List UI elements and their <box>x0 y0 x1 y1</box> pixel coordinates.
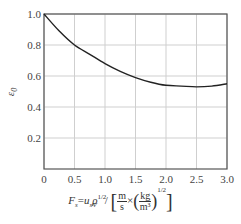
tick-labels: 00.51.01.52.02.53.00.20.40.60.81.0 <box>27 8 234 185</box>
y-tick-label: 0.8 <box>27 39 41 51</box>
bracket-close: ] <box>166 190 173 212</box>
y-tick-label: 1.0 <box>27 8 41 20</box>
x-tick-label: 0 <box>41 173 47 185</box>
x-label-F: F <box>68 194 75 206</box>
y-axis-label: ε0 <box>4 88 19 96</box>
y-tick-label: 0.2 <box>27 132 41 144</box>
frac-den-m3: m³ <box>139 202 151 212</box>
fraction-kg-m3: kgm³ <box>139 191 151 212</box>
fraction-m-s: ms <box>117 191 127 212</box>
x-axis-label: Fs=usρ1/2V/ [ms×(kgm³)1/2] <box>0 186 241 213</box>
grid-lines <box>44 14 227 169</box>
x-label-half-power: 1/2 <box>157 186 166 194</box>
frac-den-s: s <box>117 202 127 212</box>
x-tick-label: 2.0 <box>159 173 173 185</box>
bracket-open: [ <box>110 190 117 212</box>
y-tick-label: 0.6 <box>27 70 41 82</box>
x-tick-label: 1.5 <box>129 173 143 185</box>
x-tick-label: 0.5 <box>68 173 82 185</box>
x-tick-label: 3.0 <box>220 173 234 185</box>
y-tick-label: 0.4 <box>27 101 41 113</box>
x-tick-label: 2.5 <box>190 173 204 185</box>
x-label-rho-sub: V <box>92 201 96 209</box>
x-label-slash: / <box>105 194 108 206</box>
x-tick-label: 1.0 <box>98 173 112 185</box>
